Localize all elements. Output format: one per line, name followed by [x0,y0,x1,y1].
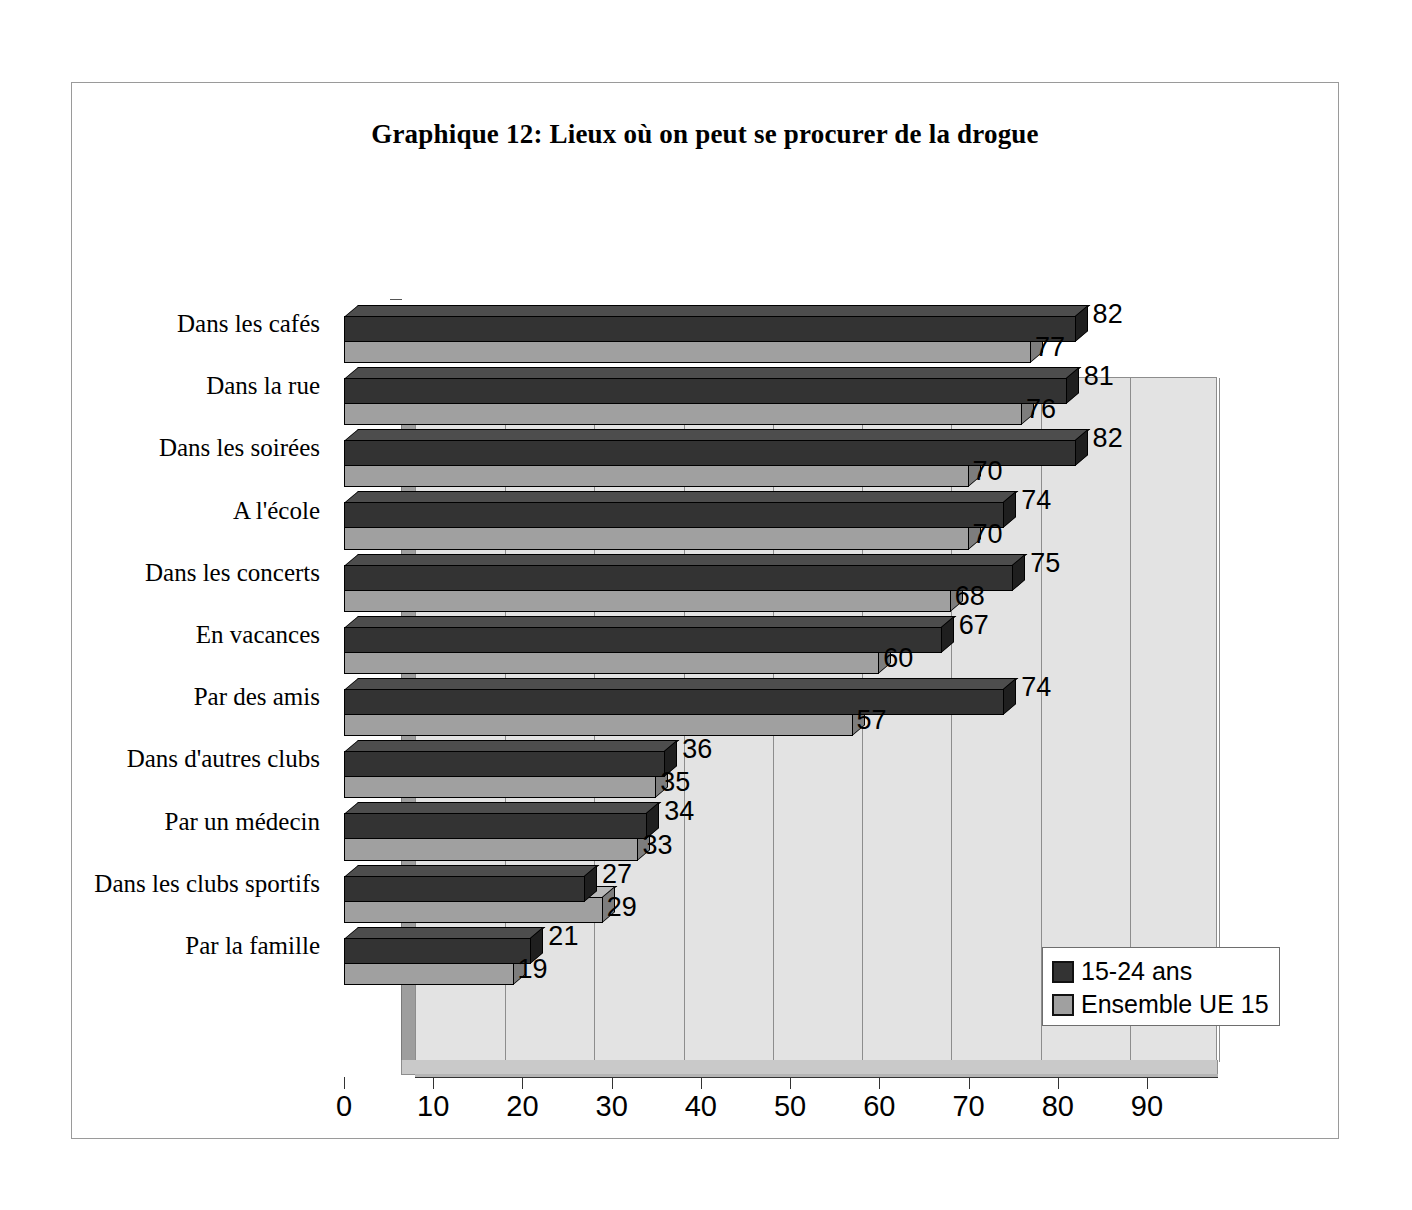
legend-swatch-icon [1052,994,1074,1016]
category-label: En vacances [0,621,320,649]
x-axis-tick-mark [522,1077,523,1089]
x-axis-tick-mark [612,1077,613,1089]
value-label-15-24-ans: 75 [1030,548,1060,579]
legend-label: Ensemble UE 15 [1081,992,1269,1017]
y-axis-tick-mark [390,672,402,673]
value-label-ensemble-ue-15: 70 [973,519,1003,550]
category-label: Par un médecin [0,808,320,836]
value-label-ensemble-ue-15: 70 [973,456,1003,487]
gridline [951,378,952,1062]
y-axis-tick-mark [390,361,402,362]
y-axis-tick-mark [390,734,402,735]
x-axis-tick-label: 10 [403,1090,463,1123]
value-label-15-24-ans: 74 [1021,672,1051,703]
x-axis-tick-mark [701,1077,702,1089]
gridline [684,378,685,1062]
x-axis-tick-label: 60 [849,1090,909,1123]
x-axis-tick-mark [1058,1077,1059,1089]
chart-legend: 15-24 ans Ensemble UE 15 [1042,947,1280,1026]
value-label-ensemble-ue-15: 19 [518,954,548,985]
value-label-15-24-ans: 81 [1084,361,1114,392]
value-label-15-24-ans: 82 [1093,299,1123,330]
value-label-ensemble-ue-15: 33 [642,830,672,861]
value-label-ensemble-ue-15: 29 [607,892,637,923]
x-axis-tick-mark [879,1077,880,1089]
y-axis-tick-mark [390,983,402,984]
value-label-ensemble-ue-15: 76 [1026,394,1056,425]
x-axis-tick-label: 70 [939,1090,999,1123]
category-label: A l'école [0,497,320,525]
value-label-15-24-ans: 82 [1093,423,1123,454]
x-axis-line [415,1077,1218,1078]
x-axis-tick-label: 80 [1028,1090,1088,1123]
value-label-ensemble-ue-15: 57 [857,705,887,736]
category-label: Par la famille [0,932,320,960]
legend-label: 15-24 ans [1081,959,1192,984]
gridline [594,378,595,1062]
value-label-ensemble-ue-15: 68 [955,581,985,612]
category-label: Par des amis [0,683,320,711]
category-label: Dans d'autres clubs [0,745,320,773]
gridline [773,378,774,1062]
value-label-15-24-ans: 34 [664,796,694,827]
y-axis-tick-mark [390,299,402,300]
x-axis-tick-label: 0 [314,1090,374,1123]
x-axis-tick-label: 30 [582,1090,642,1123]
y-axis-tick-mark [390,548,402,549]
value-label-ensemble-ue-15: 77 [1035,332,1065,363]
x-axis-tick-mark [1147,1077,1148,1089]
x-axis-tick-label: 20 [492,1090,552,1123]
y-axis-tick-mark [390,486,402,487]
value-label-15-24-ans: 74 [1021,485,1051,516]
value-label-15-24-ans: 27 [602,859,632,890]
value-label-ensemble-ue-15: 60 [883,643,913,674]
x-axis-tick-label: 40 [671,1090,731,1123]
x-axis-tick-label: 50 [760,1090,820,1123]
x-axis-tick-mark [969,1077,970,1089]
x-axis-tick-mark [790,1077,791,1089]
value-label-15-24-ans: 67 [959,610,989,641]
x-axis-tick-mark [433,1077,434,1089]
legend-swatch-icon [1052,961,1074,983]
legend-item-0[interactable]: 15-24 ans [1052,955,1279,988]
category-label: Dans les cafés [0,310,320,338]
category-label: Dans les clubs sportifs [0,870,320,898]
category-label: Dans la rue [0,372,320,400]
legend-item-1[interactable]: Ensemble UE 15 [1052,988,1279,1021]
plot-floor [401,1060,1218,1075]
y-axis-tick-mark [390,610,402,611]
y-axis-tick-mark [390,921,402,922]
y-axis-tick-mark [390,423,402,424]
chart-frame: Graphique 12: Lieux où on peut se procur… [71,82,1339,1139]
gridline [505,378,506,1062]
y-axis-tick-mark [390,796,402,797]
x-axis-tick-label: 90 [1117,1090,1177,1123]
value-label-15-24-ans: 36 [682,734,712,765]
category-label: Dans les soirées [0,434,320,462]
chart-title: Graphique 12: Lieux où on peut se procur… [72,119,1338,150]
category-label: Dans les concerts [0,559,320,587]
plot-left-wall [401,377,416,1061]
y-axis-tick-mark [390,859,402,860]
value-label-ensemble-ue-15: 35 [660,767,690,798]
x-axis-tick-mark [344,1077,345,1089]
value-label-15-24-ans: 21 [548,921,578,952]
